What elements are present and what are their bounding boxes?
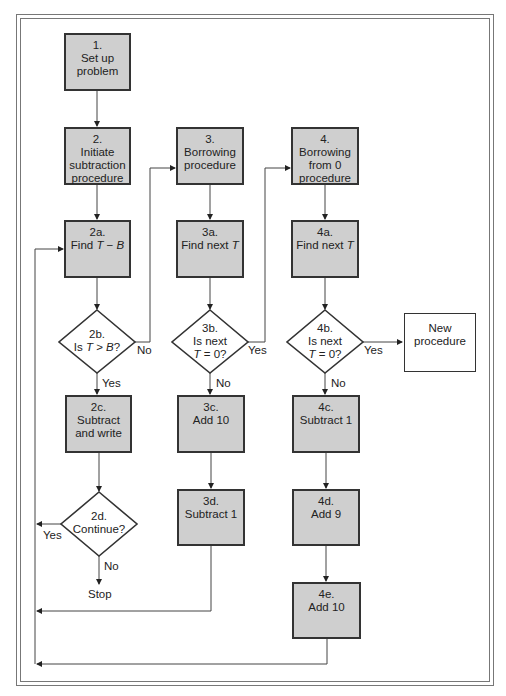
text-part: Find next: [181, 239, 232, 251]
step-2-initiate-subtraction: 2. Initiate subtraction procedure: [64, 127, 131, 185]
step-text: Subtract: [67, 414, 130, 427]
step-number: 4d.: [294, 495, 358, 508]
step-number: 2c.: [67, 401, 130, 414]
edge-label-no: No: [331, 377, 346, 390]
step-text: Borrowing: [293, 146, 357, 159]
step-number: 3b.: [170, 322, 250, 335]
edge-label-yes: Yes: [102, 377, 121, 390]
step-text: procedure: [405, 335, 475, 348]
step-text: Find next T: [178, 239, 242, 252]
variable-t: T: [86, 341, 93, 353]
step-4e-add-10: 4e. Add 10: [292, 582, 361, 639]
step-3-borrowing-procedure: 3. Borrowing procedure: [176, 127, 244, 185]
text-part: = 0?: [201, 348, 227, 360]
variable-t: T: [347, 239, 354, 251]
text-part: Is: [74, 341, 86, 353]
step-text: Find T − B: [66, 239, 129, 252]
step-number: 4c.: [294, 401, 358, 414]
step-2c-subtract-and-write: 2c. Subtract and write: [65, 395, 132, 453]
step-number: 2b.: [57, 328, 137, 341]
step-3c-add-10: 3c. Add 10: [177, 395, 245, 453]
step-text: Borrowing: [178, 146, 242, 159]
step-number: 4.: [293, 133, 357, 146]
edge-label-no: No: [104, 560, 119, 573]
variable-b: B: [106, 341, 114, 353]
edge-label-yes: Yes: [364, 344, 383, 357]
step-text: problem: [66, 65, 129, 78]
step-text: procedure: [178, 159, 242, 172]
step-4d-add-9: 4d. Add 9: [292, 489, 360, 546]
step-number: 2a.: [66, 226, 129, 239]
step-text: procedure: [66, 172, 129, 185]
step-number: 3a.: [178, 226, 242, 239]
new-procedure-box: New procedure: [404, 313, 476, 372]
step-text: procedure: [293, 172, 357, 185]
diamond-4b-label: 4b. Is next T = 0?: [285, 322, 365, 361]
step-4c-subtract-1: 4c. Subtract 1: [292, 395, 360, 453]
step-text: T = 0?: [170, 348, 250, 361]
text-part: Find next: [296, 239, 347, 251]
step-number: 1.: [66, 39, 129, 52]
step-text: from 0: [293, 159, 357, 172]
diamond-2d-label: 2d. Continue?: [59, 510, 139, 536]
text-part: Find: [71, 239, 97, 251]
step-text: Set up: [66, 52, 129, 65]
diamond-2b-label: 2b. Is T > B?: [57, 328, 137, 354]
step-number: 3.: [178, 133, 242, 146]
step-text: Add 10: [179, 414, 243, 427]
step-text: Is T > B?: [57, 341, 137, 354]
step-text: Subtract 1: [179, 508, 243, 521]
step-text: Add 9: [294, 508, 358, 521]
step-text: Subtract 1: [294, 414, 358, 427]
edge-label-no: No: [137, 344, 152, 357]
step-3d-subtract-1: 3d. Subtract 1: [177, 489, 245, 546]
step-text: Add 10: [294, 601, 359, 614]
step-number: 2.: [66, 133, 129, 146]
step-4-borrowing-from-0: 4. Borrowing from 0 procedure: [291, 127, 359, 185]
step-number: 2d.: [59, 510, 139, 523]
step-number: 3c.: [179, 401, 243, 414]
step-number: 4b.: [285, 322, 365, 335]
operator: −: [103, 239, 116, 251]
operator: >: [93, 341, 106, 353]
step-text: Is next: [170, 335, 250, 348]
stop-label: Stop: [88, 588, 112, 601]
step-number: 4e.: [294, 588, 359, 601]
variable-t: T: [232, 239, 239, 251]
step-text: Continue?: [59, 523, 139, 536]
text-part: ?: [114, 341, 120, 353]
step-number: 3d.: [179, 495, 243, 508]
step-text: Is next: [285, 335, 365, 348]
edge-label-yes: Yes: [248, 344, 267, 357]
step-text: T = 0?: [285, 348, 365, 361]
step-text: and write: [67, 427, 130, 440]
step-4a-find-next-t: 4a. Find next T: [291, 220, 359, 278]
step-3a-find-next-t: 3a. Find next T: [176, 220, 244, 278]
step-2a-find-t-minus-b: 2a. Find T − B: [64, 220, 131, 278]
diamond-3b-label: 3b. Is next T = 0?: [170, 322, 250, 361]
text-part: = 0?: [316, 348, 342, 360]
variable-t: T: [194, 348, 201, 360]
edge-label-yes: Yes: [43, 529, 62, 542]
step-text: subtraction: [66, 159, 129, 172]
edge-label-no: No: [216, 377, 231, 390]
variable-b: B: [117, 239, 125, 251]
step-text: New: [405, 322, 475, 335]
step-text: Initiate: [66, 146, 129, 159]
step-number: 4a.: [293, 226, 357, 239]
step-text: Find next T: [293, 239, 357, 252]
step-1-set-up-problem: 1. Set up problem: [64, 33, 131, 91]
variable-t: T: [309, 348, 316, 360]
